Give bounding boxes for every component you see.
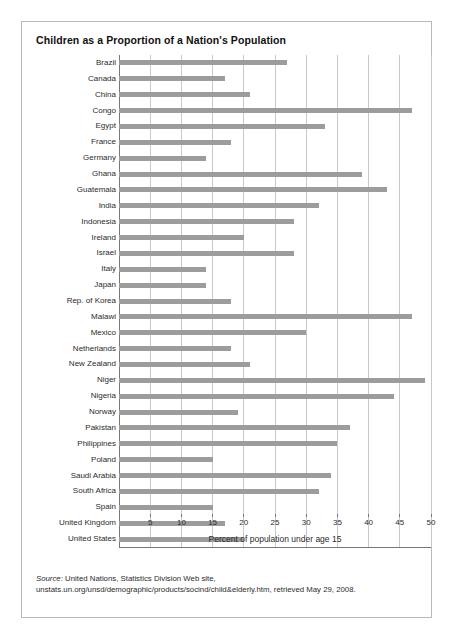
bar-guatemala bbox=[119, 187, 387, 192]
category-label-nigeria: Nigeria bbox=[91, 391, 116, 400]
x-tick-label-35: 35 bbox=[333, 518, 342, 527]
x-tick-label-5: 5 bbox=[148, 518, 152, 527]
bar-south-africa bbox=[119, 489, 319, 494]
bar-malawi bbox=[119, 314, 412, 319]
category-label-japan: Japan bbox=[94, 280, 116, 289]
x-tick-mark-45 bbox=[399, 514, 400, 517]
bar-congo bbox=[119, 108, 412, 113]
x-tick-mark-20 bbox=[243, 514, 244, 517]
bar-brazil bbox=[119, 60, 287, 65]
category-label-mexico: Mexico bbox=[91, 328, 116, 337]
bars-container bbox=[119, 55, 431, 547]
x-tick-label-45: 45 bbox=[395, 518, 404, 527]
bar-ghana bbox=[119, 172, 362, 177]
x-tick-label-25: 25 bbox=[271, 518, 280, 527]
category-label-spain: Spain bbox=[96, 502, 116, 511]
x-axis-ticks: 5101520253035404550 bbox=[119, 514, 431, 530]
gridline-50 bbox=[431, 55, 432, 547]
category-label-ghana: Ghana bbox=[92, 169, 116, 178]
bar-rep-of-korea bbox=[119, 299, 231, 304]
category-label-guatemala: Guatemala bbox=[77, 185, 116, 194]
category-label-china: China bbox=[95, 90, 116, 99]
x-tick-mark-30 bbox=[306, 514, 307, 517]
category-label-italy: Italy bbox=[101, 264, 116, 273]
category-label-israel: Israel bbox=[96, 248, 116, 257]
x-tick-mark-50 bbox=[431, 514, 432, 517]
x-tick-mark-25 bbox=[275, 514, 276, 517]
bar-japan bbox=[119, 283, 206, 288]
category-label-germany: Germany bbox=[83, 153, 116, 162]
gridline-40 bbox=[368, 55, 369, 547]
bar-germany bbox=[119, 156, 206, 161]
x-tick-label-20: 20 bbox=[239, 518, 248, 527]
bar-canada bbox=[119, 76, 225, 81]
source-note: Source: United Nations, Statistics Divis… bbox=[36, 573, 418, 595]
bar-netherlands bbox=[119, 346, 231, 351]
bar-china bbox=[119, 92, 250, 97]
category-label-france: France bbox=[91, 137, 116, 146]
bar-india bbox=[119, 203, 319, 208]
category-label-united-kingdom: United Kingdom bbox=[59, 518, 116, 527]
bar-philippines bbox=[119, 441, 337, 446]
category-label-canada: Canada bbox=[88, 74, 116, 83]
chart-plot-area: BrazilCanadaChinaCongoEgyptFranceGermany… bbox=[22, 55, 431, 555]
x-tick-mark-40 bbox=[368, 514, 369, 517]
gridline-45 bbox=[399, 55, 400, 547]
x-tick-label-10: 10 bbox=[177, 518, 186, 527]
x-axis-line bbox=[119, 547, 431, 548]
category-label-netherlands: Netherlands bbox=[73, 344, 116, 353]
bar-nigeria bbox=[119, 394, 394, 399]
category-label-south-africa: South Africa bbox=[73, 486, 116, 495]
category-label-pakistan: Pakistan bbox=[85, 423, 116, 432]
x-tick-mark-5 bbox=[150, 514, 151, 517]
bar-pakistan bbox=[119, 425, 350, 430]
x-tick-mark-15 bbox=[212, 514, 213, 517]
category-axis-labels: BrazilCanadaChinaCongoEgyptFranceGermany… bbox=[22, 55, 119, 547]
bar-italy bbox=[119, 267, 206, 272]
x-tick-mark-10 bbox=[181, 514, 182, 517]
bar-mexico bbox=[119, 330, 306, 335]
category-label-new-zealand: New Zealand bbox=[69, 359, 116, 368]
x-tick-label-30: 30 bbox=[302, 518, 311, 527]
bar-spain bbox=[119, 505, 213, 510]
category-label-philippines: Philippines bbox=[77, 439, 116, 448]
bar-indonesia bbox=[119, 219, 294, 224]
category-label-niger: Niger bbox=[97, 375, 116, 384]
bar-saudi-arabia bbox=[119, 473, 331, 478]
category-label-indonesia: Indonesia bbox=[81, 217, 116, 226]
category-label-rep-of-korea: Rep. of Korea bbox=[67, 296, 116, 305]
x-tick-label-40: 40 bbox=[364, 518, 373, 527]
bar-poland bbox=[119, 457, 213, 462]
x-axis-title: Percent of population under age 15 bbox=[119, 534, 431, 544]
x-tick-label-50: 50 bbox=[427, 518, 436, 527]
category-label-saudi-arabia: Saudi Arabia bbox=[71, 471, 116, 480]
bar-new-zealand bbox=[119, 362, 250, 367]
category-label-congo: Congo bbox=[92, 106, 116, 115]
gridline-35 bbox=[337, 55, 338, 547]
category-label-ireland: Ireland bbox=[92, 233, 116, 242]
bar-norway bbox=[119, 410, 238, 415]
category-label-india: India bbox=[99, 201, 116, 210]
source-text: United Nations, Statistics Division Web … bbox=[36, 574, 356, 594]
chart-title: Children as a Proportion of a Nation's P… bbox=[36, 34, 286, 46]
bar-egypt bbox=[119, 124, 325, 129]
bar-ireland bbox=[119, 235, 244, 240]
source-label: Source: bbox=[36, 574, 63, 583]
category-label-egypt: Egypt bbox=[96, 121, 116, 130]
category-label-malawi: Malawi bbox=[91, 312, 116, 321]
category-label-norway: Norway bbox=[89, 407, 116, 416]
bar-france bbox=[119, 140, 231, 145]
x-tick-mark-35 bbox=[337, 514, 338, 517]
category-label-poland: Poland bbox=[91, 455, 116, 464]
x-tick-label-15: 15 bbox=[208, 518, 217, 527]
figure-card: Children as a Proportion of a Nation's P… bbox=[21, 21, 432, 618]
category-label-united-states: United States bbox=[68, 534, 116, 543]
category-label-brazil: Brazil bbox=[96, 58, 116, 67]
bar-niger bbox=[119, 378, 425, 383]
bar-israel bbox=[119, 251, 294, 256]
